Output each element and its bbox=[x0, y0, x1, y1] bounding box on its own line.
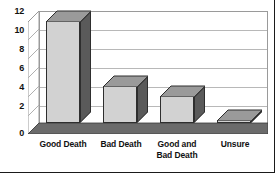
bar-side-face bbox=[80, 11, 91, 123]
bar-unsure[interactable] bbox=[217, 110, 251, 123]
y-tick-label: 12 bbox=[6, 7, 24, 16]
x-label-line: Unsure bbox=[200, 139, 270, 150]
y-tick-label: 8 bbox=[6, 45, 24, 54]
y-axis: 12 10 8 6 4 2 0 bbox=[6, 0, 24, 173]
plot-area bbox=[28, 11, 268, 134]
bar-front-face bbox=[46, 22, 80, 123]
bar-bad-death[interactable] bbox=[103, 76, 137, 123]
y-tick-label: 10 bbox=[6, 26, 24, 35]
y-tick-label: 4 bbox=[6, 83, 24, 92]
bar-front-face bbox=[103, 87, 137, 123]
bar-good-and-bad-death[interactable] bbox=[160, 86, 194, 123]
chart-floor bbox=[28, 122, 268, 134]
bar-front-face bbox=[217, 121, 251, 123]
x-label-line: Bad Death bbox=[142, 150, 212, 161]
bar-good-death[interactable] bbox=[46, 11, 80, 123]
bar-top-face bbox=[217, 110, 251, 121]
bar-top-face bbox=[103, 76, 137, 87]
x-tick-label-unsure: Unsure bbox=[200, 139, 270, 150]
y-tick-label: 0 bbox=[6, 129, 24, 138]
y-tick-label: 6 bbox=[6, 64, 24, 73]
x-axis: Good Death Bad Death Good and Bad Death … bbox=[28, 139, 268, 173]
y-tick-label: 2 bbox=[6, 102, 24, 111]
chart-figure: 12 10 8 6 4 2 0 bbox=[0, 0, 275, 173]
bar-front-face bbox=[160, 97, 194, 123]
chart-left-wall bbox=[28, 11, 40, 134]
bar-top-face bbox=[46, 11, 80, 22]
bar-top-face bbox=[160, 86, 194, 97]
